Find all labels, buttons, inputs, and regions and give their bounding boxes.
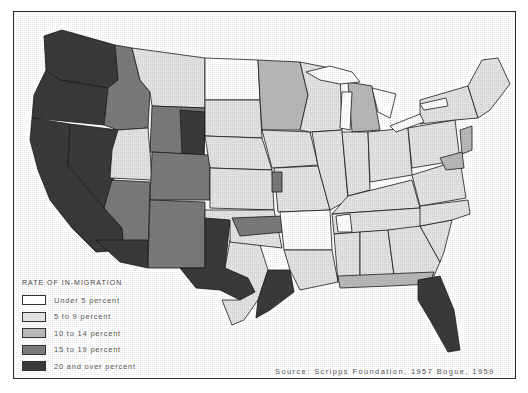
legend-label: 5 to 9 percent: [54, 312, 111, 321]
region-wyoming-east: [180, 110, 205, 155]
region-new-jersey: [460, 126, 472, 154]
legend-swatch: [22, 295, 46, 305]
region-arkansas: [280, 210, 332, 250]
region-nebraska: [205, 136, 272, 170]
region-florida: [418, 276, 460, 352]
legend-swatch: [22, 345, 46, 355]
region-iowa: [262, 130, 318, 168]
region-tennessee-white: [336, 214, 352, 232]
legend-item-15-to-19: 15 to 19 percent: [22, 342, 182, 359]
region-kansas: [210, 168, 274, 210]
legend-item-under-5: Under 5 percent: [22, 292, 182, 309]
legend-item-10-to-14: 10 to 14 percent: [22, 325, 182, 342]
legend-swatch: [22, 361, 46, 371]
region-ohio: [368, 128, 412, 182]
region-mississippi: [334, 232, 360, 282]
lake-michigan: [340, 92, 352, 130]
region-minnesota: [258, 60, 308, 130]
legend-label: 15 to 19 percent: [54, 345, 121, 354]
region-utah: [110, 128, 152, 180]
legend-label: Under 5 percent: [54, 296, 120, 305]
region-new-mexico: [148, 200, 205, 268]
legend-item-5-to-9: 5 to 9 percent: [22, 309, 182, 326]
legend-swatch: [22, 328, 46, 338]
region-north-dakota: [205, 58, 260, 100]
source-citation: Source: Scripps Foundation, 1957 Bogue, …: [275, 367, 495, 376]
legend-label: 10 to 14 percent: [54, 329, 121, 338]
legend-swatch: [22, 312, 46, 322]
legend-item-20-and-over: 20 and over percent: [22, 358, 182, 375]
region-colorado: [150, 152, 210, 200]
region-arizona-south: [96, 240, 148, 268]
legend: RATE OF IN-MIGRATION Under 5 percent 5 t…: [22, 279, 182, 375]
region-south-dakota: [205, 100, 262, 138]
legend-label: 20 and over percent: [54, 362, 136, 371]
region-kansas-city: [272, 172, 282, 192]
region-oklahoma-band: [232, 216, 284, 236]
legend-title: RATE OF IN-MIGRATION: [22, 279, 182, 286]
